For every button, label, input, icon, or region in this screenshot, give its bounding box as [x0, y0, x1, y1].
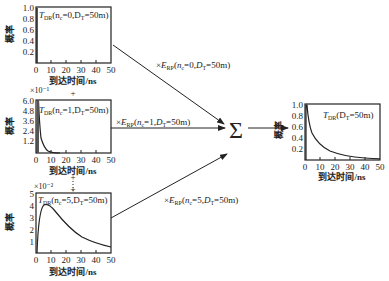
y-tick-labels: 1.0 0.8 0.6 0.4 0.2	[292, 100, 304, 154]
x-tick: 50	[376, 162, 386, 172]
sum-symbol: Σ	[229, 117, 243, 143]
pdf-curve	[37, 204, 111, 253]
plot-tdr-total: 1.0 0.8 0.6 0.4 0.2 0 10 20 30 40 50 到达时…	[273, 100, 385, 182]
y-tick: 2	[30, 225, 35, 235]
y-tick: 2.4	[23, 126, 35, 136]
x-tick-labels: 0 10 20 30 40 50	[34, 65, 116, 75]
x-tick: 20	[62, 155, 72, 165]
y-scale-factor: ×10⁻¹	[30, 86, 50, 95]
plus-sign: +	[70, 88, 75, 98]
y-tick: 1.2	[23, 136, 34, 146]
arrow-n0: ×ERP(nc=0,DT=50m)	[113, 45, 230, 124]
y-tick-labels: 1.0 0.8 0.6 0.4 0.2	[23, 3, 35, 57]
y-tick: 4	[30, 201, 35, 211]
y-axis-label: 概率	[4, 117, 15, 135]
x-tick: 10	[316, 162, 326, 172]
y-tick: 0.8	[292, 111, 304, 121]
y-tick: 0.2	[23, 47, 34, 57]
y-axis-label: 概率	[4, 25, 15, 43]
y-axis-label: 概率	[273, 121, 284, 139]
x-axis-label: 到达时间/ns	[318, 171, 366, 182]
arrow-n1: ×ERP(nc=1,DT=50m)	[111, 117, 225, 128]
y-tick: 1.0	[292, 100, 304, 110]
x-tick: 40	[92, 155, 102, 165]
plot-tdr-n5: ×10⁻² 5 4 3 2 1 0 10 20 30 40 50 到达时间/ns…	[4, 182, 116, 277]
x-tick: 10	[47, 155, 57, 165]
y-tick: 1.0	[23, 3, 35, 13]
x-tick: 10	[47, 65, 57, 75]
x-tick: 40	[361, 162, 371, 172]
x-tick: 20	[62, 255, 72, 265]
x-tick: 30	[77, 65, 87, 75]
x-tick: 0	[34, 255, 39, 265]
x-tick: 30	[346, 162, 356, 172]
y-tick: 0.4	[292, 133, 304, 143]
arrow-label: ×ERP(nc=0,DT=50m)	[156, 60, 230, 71]
y-tick: 0.6	[23, 25, 35, 35]
plus-sign: +	[70, 172, 75, 182]
x-tick: 50	[107, 155, 117, 165]
arrow-line	[113, 45, 224, 124]
plot-title: TDR(nc=5,DT=50m)	[38, 195, 108, 206]
x-tick: 50	[107, 255, 117, 265]
y-tick: 3.6	[23, 116, 35, 126]
y-tick: 4.8	[23, 106, 35, 116]
y-tick: 3	[30, 213, 35, 223]
x-tick-labels: 0 10 20 30 40 50	[34, 255, 116, 265]
plot-title: TDR(nc=0,DT=50m)	[39, 10, 109, 21]
x-axis-label: 到达时间/ns	[49, 266, 97, 277]
x-tick: 10	[47, 255, 57, 265]
x-tick: 20	[331, 162, 341, 172]
x-tick: 30	[77, 155, 87, 165]
plot-tdr-n1: ×10⁻¹ 6.0 4.8 3.6 2.4 1.2 0 10 20 30 40 …	[4, 86, 116, 176]
y-tick-labels: 5 4 3 2 1	[30, 189, 35, 247]
x-tick: 0	[34, 65, 39, 75]
x-tick-labels: 0 10 20 30 40 50	[34, 155, 116, 165]
plot-title: TDR(nc=1,DT=50m)	[39, 105, 109, 116]
y-tick: 0.8	[23, 14, 35, 24]
x-tick: 50	[107, 65, 117, 75]
y-axis-label: 概率	[4, 213, 15, 231]
y-scale-factor: ×10⁻²	[34, 182, 54, 191]
plot-tdr-n0: 1.0 0.8 0.6 0.4 0.2 0 10 20 30 40 50 到达时…	[4, 3, 116, 86]
y-tick-labels: 6.0 4.8 3.6 2.4 1.2	[23, 96, 35, 146]
y-tick: 1	[30, 237, 35, 247]
arrow-label: ×ERP(nc=1,DT=50m)	[116, 117, 190, 128]
y-tick: 0.6	[292, 122, 304, 132]
plot-title: TDR(DT=50m)	[323, 110, 374, 121]
diagram-canvas: 1.0 0.8 0.6 0.4 0.2 0 10 20 30 40 50 到达时…	[0, 0, 389, 281]
x-tick: 0	[34, 155, 39, 165]
y-tick: 6.0	[23, 96, 35, 106]
y-tick: 0.2	[292, 144, 303, 154]
x-tick: 40	[92, 65, 102, 75]
x-tick: 0	[303, 162, 308, 172]
arrow-line	[111, 154, 227, 218]
x-tick-labels: 0 10 20 30 40 50	[303, 162, 385, 172]
x-axis-label: 到达时间/ns	[49, 75, 97, 86]
y-tick: 0.4	[23, 36, 35, 46]
arrow-n5: ×ERP(nc=5,DT=50m)	[111, 154, 238, 218]
x-tick: 20	[62, 65, 72, 75]
x-tick: 40	[92, 255, 102, 265]
y-tick: 5	[30, 189, 35, 199]
x-tick: 30	[77, 255, 87, 265]
arrow-label: ×ERP(nc=5,DT=50m)	[164, 195, 238, 206]
